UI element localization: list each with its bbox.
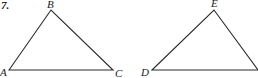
triangle-abc-shape [9, 10, 113, 70]
triangle-abc: A B C [0, 0, 123, 78]
vertex-label-d: D [140, 66, 149, 78]
vertex-label-e: E [210, 0, 218, 9]
triangle-def-shape [152, 10, 258, 70]
vertex-label-c: C [115, 67, 123, 78]
triangle-diagram: 7. A B C D E [0, 0, 258, 78]
vertex-label-a: A [0, 66, 7, 78]
vertex-label-b: B [47, 0, 54, 10]
triangle-def: D E [140, 0, 258, 78]
problem-number: 7. [1, 0, 9, 11]
